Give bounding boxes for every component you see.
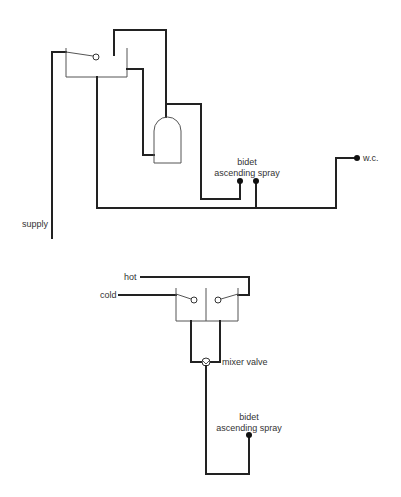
float-lever (66, 52, 93, 56)
hot-label: hot (124, 272, 137, 282)
cold-outlet-pipe (191, 321, 202, 362)
mixer-valve-icon (202, 358, 210, 366)
supply-pipe (52, 52, 66, 238)
mixer-valve-label: mixer valve (222, 357, 268, 367)
hot-pipe (141, 277, 249, 295)
main-return-pipe (97, 77, 357, 208)
cold-label: cold (100, 290, 117, 300)
bottom-bidet-label-line2: ascending spray (216, 423, 282, 433)
spray-feed-pipe (166, 104, 240, 199)
float-ball-icon (93, 54, 99, 60)
spray-outlet-1 (237, 178, 243, 184)
bidet-label-line1: bidet (237, 157, 257, 167)
vent-pipe (114, 30, 166, 117)
wc-outlet (354, 155, 360, 161)
bidet-bowl (154, 117, 181, 163)
top-diagram: supply bidet ascending spray w.c. (22, 30, 379, 238)
plumbing-diagram: supply bidet ascending spray w.c. hot co… (0, 0, 401, 497)
twin-tank (176, 288, 238, 321)
cold-float-ball-icon (191, 297, 197, 303)
hot-float-lever (221, 294, 238, 299)
hot-float-ball-icon (215, 297, 221, 303)
supply-label: supply (22, 219, 49, 229)
bidet-label-line2: ascending spray (214, 168, 280, 178)
wc-label: w.c. (362, 153, 379, 163)
bottom-bidet-label-line1: bidet (239, 412, 259, 422)
cold-float-lever (176, 294, 191, 299)
hot-outlet-pipe (210, 321, 220, 362)
cistern-tank (66, 48, 127, 77)
bottom-diagram: hot cold mixer valve bidet ascending spr… (100, 272, 282, 474)
spray-outlet-2 (253, 178, 259, 184)
bowl-feed-pipe (127, 69, 154, 155)
